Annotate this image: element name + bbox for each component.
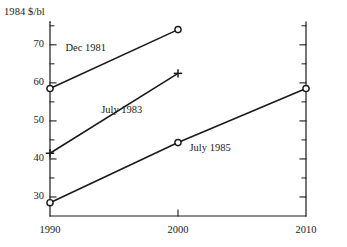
series-annotation-1: July 1983 bbox=[101, 104, 142, 115]
data-point-marker bbox=[175, 139, 181, 145]
chart-plot-area bbox=[0, 0, 347, 247]
series-annotation-0: Dec 1981 bbox=[65, 42, 106, 53]
x-tick-label-2000: 2000 bbox=[150, 224, 206, 235]
y-tick-label-30: 30 bbox=[16, 190, 44, 201]
series-layer bbox=[46, 27, 309, 206]
data-point-marker bbox=[303, 85, 309, 91]
data-point-marker bbox=[47, 200, 53, 206]
series-line-0 bbox=[50, 30, 178, 89]
data-point-marker bbox=[174, 69, 182, 77]
y-tick-label-60: 60 bbox=[16, 76, 44, 87]
series-annotation-2: July 1985 bbox=[190, 142, 231, 153]
x-tick-label-2010: 2010 bbox=[278, 224, 334, 235]
x-tick-label-1990: 1990 bbox=[22, 224, 78, 235]
oil-price-projection-chart: 1984 $/bl 3040506070199020002010Dec 1981… bbox=[0, 0, 347, 247]
data-point-marker bbox=[47, 85, 53, 91]
y-tick-label-70: 70 bbox=[16, 38, 44, 49]
data-point-marker bbox=[175, 27, 181, 33]
y-tick-label-40: 40 bbox=[16, 152, 44, 163]
y-tick-label-50: 50 bbox=[16, 114, 44, 125]
data-point-marker bbox=[46, 149, 54, 157]
